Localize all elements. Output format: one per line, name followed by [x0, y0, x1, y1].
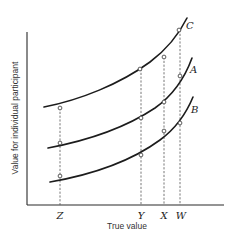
marker-label-z: Z: [56, 210, 65, 221]
point-b-x: [162, 129, 166, 133]
marker-label-w: W: [176, 210, 187, 221]
point-a-y: [139, 116, 143, 120]
curve-b: [50, 97, 193, 182]
point-c-x: [162, 55, 166, 59]
point-c-y: [138, 67, 142, 71]
curve-a: [48, 58, 192, 148]
point-c-w: [177, 28, 181, 32]
point-a-x: [162, 100, 166, 104]
x-axis-title: True value: [107, 221, 147, 231]
point-b-y: [139, 153, 143, 157]
point-c-z: [58, 106, 62, 110]
y-axis-title: Value for individual participant: [10, 61, 20, 174]
curve-c: [44, 18, 187, 107]
marker-label-x: X: [159, 210, 168, 221]
curve-label-a: A: [189, 64, 197, 75]
point-a-w: [178, 74, 182, 78]
curve-label-c: C: [186, 20, 194, 31]
marker-label-y: Y: [138, 210, 146, 221]
diagram: C A B Z Y X W True value Value for indiv…: [0, 0, 238, 236]
point-b-z: [58, 174, 62, 178]
point-a-z: [58, 141, 62, 145]
curve-label-b: B: [190, 104, 198, 115]
point-b-w: [178, 121, 182, 125]
